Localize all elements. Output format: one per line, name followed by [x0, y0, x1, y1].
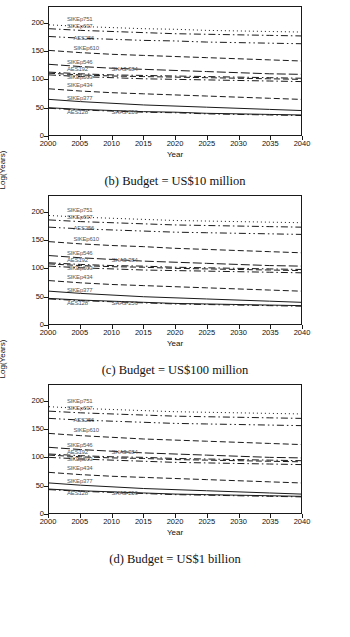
x-axis-label-b: Year	[0, 150, 350, 159]
figure-page: Log(Years) SIKEp751SIKEp697AES256SIKEp61…	[0, 0, 350, 637]
series-annotation-sikep377: SIKEp377	[67, 95, 92, 101]
plot-wrap-b: Log(Years) SIKEp751SIKEp697AES256SIKEp61…	[0, 0, 350, 172]
x-tick-mark	[48, 325, 49, 329]
series-annotation-aes192: AES192	[67, 449, 88, 455]
series-annotation-sikep610: SIKEp610	[73, 45, 98, 51]
y-tick-label: 200	[4, 396, 44, 405]
caption-d: (d) Budget = US$1 billion	[0, 550, 350, 567]
series-annotation-aes128: AES128	[67, 300, 88, 306]
series-annotation-sha3-256: SHA3-256	[112, 300, 138, 306]
series-annotation-sikep434: SIKEp434	[67, 465, 92, 471]
y-tick-label: 50	[4, 481, 44, 490]
y-tick-label: 150	[4, 424, 44, 433]
series-annotation-aes256: AES256	[73, 417, 94, 423]
x-tick-mark	[302, 514, 303, 518]
y-tick-label: 100	[4, 74, 44, 83]
x-tick-mark	[239, 136, 240, 140]
series-annotation-sikep434: SIKEp434	[67, 82, 92, 88]
x-tick-mark	[80, 136, 81, 140]
series-annotation-aes192: AES192	[67, 257, 88, 263]
x-tick-mark	[207, 514, 208, 518]
x-tick-mark	[112, 136, 113, 140]
caption-c: (c) Budget = US$100 million	[0, 361, 350, 378]
series-annotation-aes128: AES128	[67, 490, 88, 496]
x-tick-mark	[207, 325, 208, 329]
y-tick-mark	[44, 51, 48, 52]
x-tick-mark	[80, 514, 81, 518]
x-tick-mark	[112, 514, 113, 518]
x-tick-label: 2040	[282, 139, 322, 148]
figure-panel-c: Log(Years) SIKEp751SIKEp697AES256SIKEp61…	[0, 189, 350, 378]
series-annotation-sikep751: SIKEp751	[67, 398, 92, 404]
series-annotation-sikep503: SIKEp503	[67, 265, 92, 271]
x-tick-mark	[143, 514, 144, 518]
series-annotation-aes192: AES192	[67, 66, 88, 72]
x-tick-mark	[302, 325, 303, 329]
x-tick-label: 2040	[282, 517, 322, 526]
y-tick-mark	[44, 429, 48, 430]
series-annotation-sha3-256: SHA3-256	[112, 109, 138, 115]
x-axis-label-d: Year	[0, 528, 350, 537]
x-axis-label-c: Year	[0, 339, 350, 348]
series-annotation-sikep697: SIKEp697	[67, 405, 92, 411]
y-tick-mark	[44, 457, 48, 458]
series-annotation-aes256: AES256	[73, 225, 94, 231]
x-tick-mark	[270, 325, 271, 329]
series-annotation-sikep610: SIKEp610	[73, 427, 98, 433]
x-tick-mark	[270, 136, 271, 140]
y-tick-mark	[44, 268, 48, 269]
x-tick-mark	[143, 136, 144, 140]
figure-panel-d: Log(Years) SIKEp751SIKEp697AES256SIKEp61…	[0, 378, 350, 567]
y-tick-mark	[44, 23, 48, 24]
y-tick-label: 150	[4, 46, 44, 55]
x-tick-mark	[48, 514, 49, 518]
series-annotation-sikep434: SIKEp434	[67, 274, 92, 280]
caption-b: (b) Budget = US$10 million	[0, 172, 350, 189]
figure-panel-b: Log(Years) SIKEp751SIKEp697AES256SIKEp61…	[0, 0, 350, 189]
x-tick-mark	[112, 325, 113, 329]
series-annotation-sikep751: SIKEp751	[67, 16, 92, 22]
y-tick-label: 100	[4, 263, 44, 272]
series-annotation-sikep503: SIKEp503	[67, 74, 92, 80]
x-tick-mark	[175, 514, 176, 518]
x-tick-mark	[239, 514, 240, 518]
y-tick-mark	[44, 79, 48, 80]
x-tick-mark	[143, 325, 144, 329]
y-tick-mark	[44, 486, 48, 487]
series-annotation-sha3-384: SHA3-384	[112, 257, 138, 263]
series-annotation-sikep546: SIKEp546	[67, 442, 92, 448]
series-annotation-sikep697: SIKEp697	[67, 23, 92, 29]
y-axis-label-d: Log(Years)	[0, 314, 7, 404]
x-tick-mark	[239, 325, 240, 329]
y-tick-mark	[44, 108, 48, 109]
y-tick-mark	[44, 401, 48, 402]
y-tick-mark	[44, 212, 48, 213]
x-tick-mark	[175, 136, 176, 140]
series-annotation-sikep751: SIKEp751	[67, 207, 92, 213]
series-annotation-sikep503: SIKEp503	[67, 456, 92, 462]
y-tick-label: 50	[4, 103, 44, 112]
plot-wrap-d: Log(Years) SIKEp751SIKEp697AES256SIKEp61…	[0, 378, 350, 550]
x-tick-label: 2040	[282, 328, 322, 337]
x-tick-mark	[48, 136, 49, 140]
y-tick-label: 200	[4, 18, 44, 27]
series-annotation-sikep377: SIKEp377	[67, 478, 92, 484]
x-tick-mark	[80, 325, 81, 329]
series-annotation-aes256: AES256	[73, 35, 94, 41]
series-annotation-sha3-256: SHA3-256	[112, 490, 138, 496]
x-tick-mark	[270, 514, 271, 518]
series-annotation-sikep546: SIKEp546	[67, 250, 92, 256]
series-annotation-sikep546: SIKEp546	[67, 59, 92, 65]
series-annotation-sikep610: SIKEp610	[73, 236, 98, 242]
y-tick-mark	[44, 240, 48, 241]
series-annotation-aes128: AES128	[67, 109, 88, 115]
series-annotation-sha3-384: SHA3-384	[112, 449, 138, 455]
x-tick-mark	[302, 136, 303, 140]
y-tick-label: 100	[4, 452, 44, 461]
y-axis-label-c: Log(Years)	[0, 125, 7, 215]
y-tick-mark	[44, 297, 48, 298]
series-annotation-sha3-384: SHA3-384	[112, 66, 138, 72]
series-annotation-sikep377: SIKEp377	[67, 287, 92, 293]
y-tick-label: 200	[4, 207, 44, 216]
y-tick-label: 50	[4, 292, 44, 301]
